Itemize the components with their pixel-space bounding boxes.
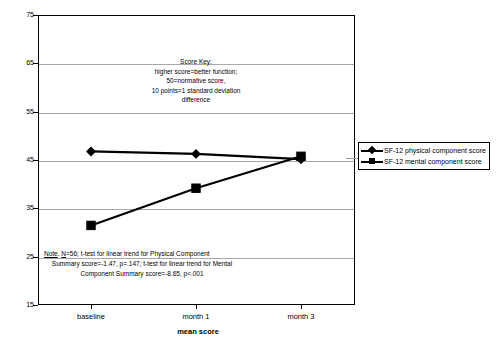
- legend-label-physical: SF-12 physical component score: [383, 146, 486, 155]
- legend-label-mental: SF-12 mental component score: [383, 157, 482, 166]
- legend-leader-line: [346, 158, 358, 159]
- legend-item-physical[interactable]: SF-12 physical component score: [361, 145, 486, 156]
- series-layer: [0, 0, 502, 346]
- legend-item-mental[interactable]: SF-12 mental component score: [361, 156, 486, 167]
- data-point-physical-month1: [191, 149, 201, 159]
- data-point-physical-baseline: [86, 147, 96, 157]
- data-point-mental-baseline: [87, 221, 95, 229]
- diamond-marker-icon: [361, 145, 383, 156]
- data-point-mental-month1: [192, 184, 200, 192]
- data-point-mental-month3: [297, 152, 305, 160]
- chart-figure: 75 65 55 45 35 25 15 baseline month 1 mo…: [0, 0, 502, 346]
- legend: SF-12 physical component score SF-12 men…: [358, 142, 490, 170]
- square-marker-icon: [361, 156, 383, 167]
